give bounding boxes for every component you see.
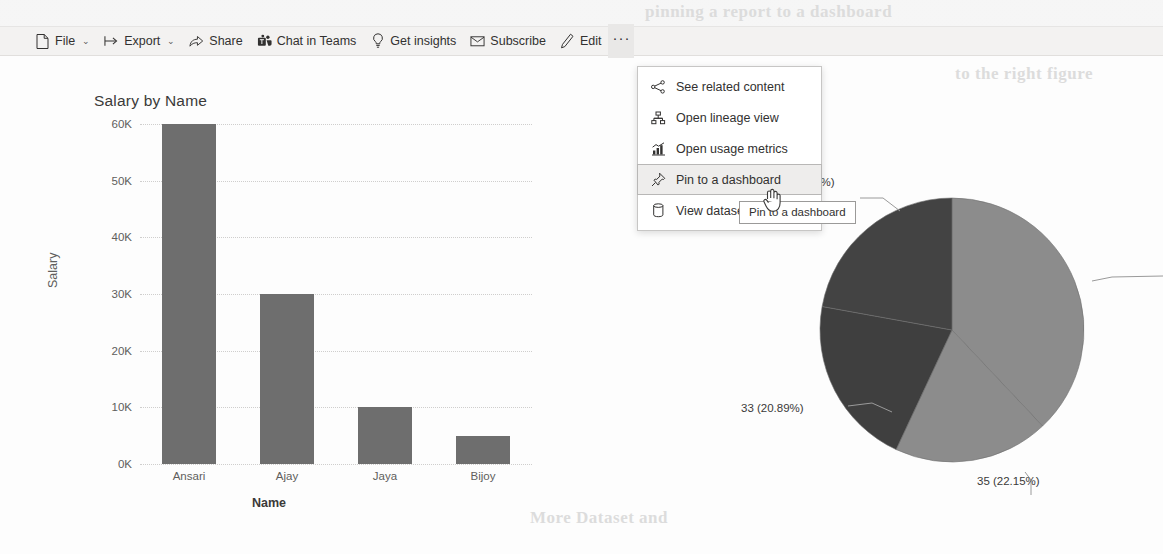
bar-chart-bar[interactable] xyxy=(456,436,511,464)
bar-chart-bar[interactable] xyxy=(162,124,217,464)
envelope-icon xyxy=(470,34,485,49)
bar-chart-y-tick: 0K xyxy=(118,458,140,470)
mouse-cursor-icon xyxy=(762,188,784,214)
share-nodes-icon xyxy=(650,79,666,95)
export-icon xyxy=(104,34,119,49)
lineage-icon xyxy=(650,110,666,126)
ghost-text-line-3: More Dataset and xyxy=(530,508,668,528)
menu-item-open-usage-metrics[interactable]: Open usage metrics xyxy=(638,133,821,164)
menu-item-label: See related content xyxy=(676,80,784,94)
bar-chart-gridline xyxy=(140,464,532,465)
chevron-down-icon: ⌄ xyxy=(82,36,90,46)
toolbar-item-share-label: Share xyxy=(209,35,242,48)
toolbar-item-export[interactable]: Export ⌄ xyxy=(97,27,182,55)
menu-item-label: View dataset xyxy=(676,204,747,218)
toolbar-item-file[interactable]: File ⌄ xyxy=(28,27,97,55)
tooltip: Pin to a dashboard xyxy=(739,201,856,224)
bar-chart-x-tick: Ansari xyxy=(173,470,206,482)
ghost-text-line-2: to the right figure xyxy=(955,64,1093,84)
pie-slice-label-2: 33 (20.89%) xyxy=(741,402,804,414)
bar-chart[interactable]: Salary by Name Salary Name 0K10K20K30K40… xyxy=(62,92,542,522)
pencil-icon xyxy=(560,34,575,49)
toolbar-item-get-insights-label: Get insights xyxy=(390,35,456,48)
toolbar-item-subscribe-label: Subscribe xyxy=(490,35,546,48)
toolbar-item-edit[interactable]: Edit xyxy=(553,27,609,55)
menu-item-label: Open lineage view xyxy=(676,111,779,125)
bar-chart-title: Salary by Name xyxy=(94,92,207,110)
pie-slice-label-3: 35 (22.15%) xyxy=(977,475,1040,487)
bar-chart-y-tick: 20K xyxy=(112,345,140,357)
toolbar-item-chat-in-teams[interactable]: Chat in Teams xyxy=(250,27,364,55)
lightbulb-icon xyxy=(370,34,385,49)
dataset-icon xyxy=(650,203,666,219)
bar-chart-x-tick: Bijoy xyxy=(471,470,496,482)
bar-chart-y-axis-label: Salary xyxy=(46,253,60,288)
menu-item-label: Open usage metrics xyxy=(676,142,788,156)
toolbar-item-edit-label: Edit xyxy=(580,35,602,48)
bar-chart-y-tick: 30K xyxy=(112,288,140,300)
bar-chart-y-tick: 10K xyxy=(112,401,140,413)
ghost-text-line-1: pinning a report to a dashboard xyxy=(645,2,892,22)
bar-chart-y-tick: 50K xyxy=(112,175,140,187)
toolbar-item-subscribe[interactable]: Subscribe xyxy=(463,27,553,55)
pie-leader-line xyxy=(860,198,900,211)
bar-chart-plot-area: 0K10K20K30K40K50K60KAnsariAjayJayaBijoy xyxy=(140,124,532,464)
toolbar-item-share[interactable]: Share xyxy=(182,27,249,55)
pie-leader-line xyxy=(1092,276,1163,281)
menu-item-pin-to-a-dashboard[interactable]: Pin to a dashboard xyxy=(637,164,822,195)
bar-chart-bar[interactable] xyxy=(358,407,413,464)
menu-item-open-lineage-view[interactable]: Open lineage view xyxy=(638,102,821,133)
bar-chart-bar[interactable] xyxy=(260,294,315,464)
report-toolbar: File ⌄ Export ⌄ Share Chat in Teams Get … xyxy=(0,26,1163,56)
bar-chart-x-tick: Ajay xyxy=(276,470,298,482)
teams-icon xyxy=(257,34,272,49)
share-icon xyxy=(189,34,204,49)
pin-icon xyxy=(650,172,666,188)
toolbar-item-file-label: File xyxy=(55,35,75,48)
toolbar-item-export-label: Export xyxy=(124,35,160,48)
file-icon xyxy=(35,34,50,49)
more-options-button[interactable]: ··· xyxy=(608,24,634,58)
bar-chart-x-tick: Jaya xyxy=(373,470,397,482)
menu-item-label: Pin to a dashboard xyxy=(676,173,781,187)
bar-chart-y-tick: 40K xyxy=(112,231,140,243)
toolbar-item-chat-in-teams-label: Chat in Teams xyxy=(277,35,357,48)
usage-metrics-icon xyxy=(650,141,666,157)
bar-chart-x-axis-label: Name xyxy=(252,496,286,510)
chevron-down-icon: ⌄ xyxy=(167,36,175,46)
menu-item-see-related-content[interactable]: See related content xyxy=(638,71,821,102)
toolbar-item-get-insights[interactable]: Get insights xyxy=(363,27,463,55)
bar-chart-y-tick: 60K xyxy=(112,118,140,130)
